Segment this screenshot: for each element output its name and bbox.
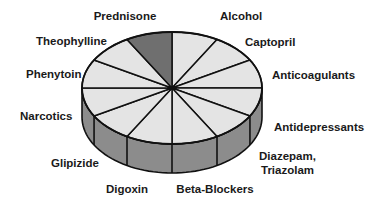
slice-label-captopril: Captopril xyxy=(245,36,295,48)
slice-label-beta-blockers: Beta-Blockers xyxy=(176,183,253,195)
pie-chart: AlcoholCaptoprilAnticoagulantsAntidepres… xyxy=(0,0,370,209)
slice-label-alcohol: Alcohol xyxy=(220,10,262,22)
slice-label-diazepam-triazolam: Diazepam,Triazolam xyxy=(259,150,316,176)
slice-label-narcotics: Narcotics xyxy=(20,110,72,122)
slice-label-anticoagulants: Anticoagulants xyxy=(272,69,355,81)
slice-label-antidepressants: Antidepressants xyxy=(274,121,364,133)
slice-label-theophylline: Theophylline xyxy=(36,35,107,47)
pie-center xyxy=(169,86,175,90)
slice-label-digoxin: Digoxin xyxy=(106,183,148,195)
slice-label-prednisone: Prednisone xyxy=(94,10,157,22)
pie-slices xyxy=(82,32,262,144)
slice-label-phenytoin: Phenytoin xyxy=(26,68,82,80)
slice-label-glipizide: Glipizide xyxy=(51,157,99,169)
